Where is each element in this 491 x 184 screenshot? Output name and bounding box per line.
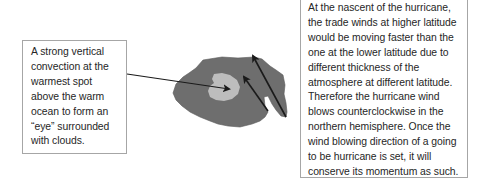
hurricane-eye-shape bbox=[208, 73, 240, 101]
wind-arrow-outer bbox=[253, 56, 286, 117]
hurricane-cloud-shape bbox=[173, 57, 287, 127]
eye-formation-note: A strong vertical convection at the warm… bbox=[22, 40, 127, 154]
wind-arrow-inner bbox=[244, 77, 268, 111]
eye-pointer-arrow bbox=[127, 74, 229, 89]
counterclockwise-wind-note: At the nascent of the hurricane, the tra… bbox=[300, 0, 468, 178]
